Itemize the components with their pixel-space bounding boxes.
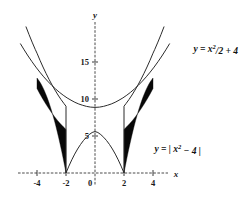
x-tick-label-4: 4 (151, 178, 156, 188)
x-tick-label-0: 0 (88, 178, 92, 188)
x-axis-label: x (173, 169, 179, 179)
absolute-label-tail: − 4 | (181, 146, 201, 156)
parabola-label-lead: y = x (192, 44, 212, 54)
y-tick-label-5: 5 (85, 131, 89, 141)
absolute-label-lead: y = | x (153, 144, 178, 154)
y-tick-label-15: 15 (81, 57, 90, 67)
y-axis-label: y (92, 10, 98, 20)
shaded-region-left (37, 78, 66, 173)
axes (18, 22, 168, 186)
math-plot-figure: -4 -2 0 2 4 5 10 15 x y y = x2/2 + 4 y =… (0, 0, 244, 198)
x-tick-label-neg4: -4 (33, 178, 41, 188)
curve-annotations: y = x2/2 + 4 y = | x2 − 4 | (133, 43, 244, 157)
plot-canvas: -4 -2 0 2 4 5 10 15 x y y = x2/2 + 4 y =… (0, 0, 244, 198)
absolute-equation-label: y = | x2 − 4 | (133, 143, 218, 157)
x-tick-label-2: 2 (122, 178, 126, 188)
y-tick-label-10: 10 (81, 94, 90, 104)
parabola-label-tail: /2 + 4 (215, 46, 239, 56)
parabola-equation-label: y = x2/2 + 4 (172, 43, 244, 57)
x-tick-label-neg2: -2 (62, 178, 69, 188)
shaded-region-right (124, 78, 153, 173)
